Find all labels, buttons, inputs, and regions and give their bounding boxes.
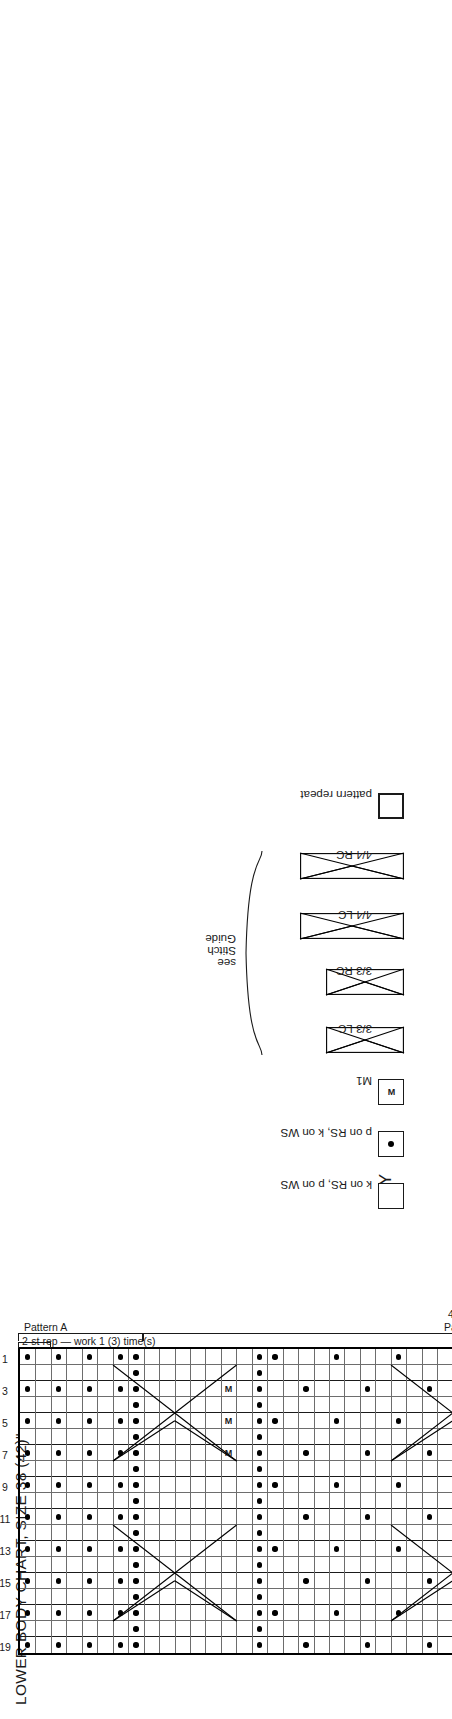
purl-stitch-dot [257,1594,262,1599]
pattern-b-bracket [142,1333,452,1341]
purl-stitch-dot [87,1450,92,1455]
purl-stitch-dot [25,1546,30,1551]
purl-stitch-dot [334,1418,339,1423]
chart-stitch-divider [360,1349,361,1653]
purl-stitch-dot [25,1354,30,1359]
chart-stitch-divider [344,1349,345,1653]
purl-stitch-dot [56,1578,61,1583]
chart-stitch-divider [51,1349,52,1653]
purl-stitch-dot [133,1642,138,1647]
purl-stitch-dot [25,1514,30,1519]
purl-stitch-dot [365,1386,370,1391]
chart-row-number: 5 [0,1417,14,1429]
purl-stitch-dot [257,1610,262,1615]
purl-stitch-dot [365,1514,370,1519]
purl-stitch-dot [25,1450,30,1455]
purl-stitch-dot [257,1402,262,1407]
chart-stage: LOWER BODY CHART, SIZE 38 (42)" MMMMMM 1… [0,0,452,1719]
chart-stitch-divider [283,1349,284,1653]
purl-stitch-dot [272,1418,277,1423]
purl-stitch-dot [56,1546,61,1551]
purl-stitch-dot [87,1386,92,1391]
purl-stitch-dot [257,1450,262,1455]
purl-stitch-dot [396,1354,401,1359]
purl-stitch-dot [365,1642,370,1647]
purl-stitch-dot [118,1354,123,1359]
purl-stitch-dot [25,1482,30,1487]
purl-stitch-dot [118,1482,123,1487]
chart-stitch-divider [66,1349,67,1653]
purl-stitch-dot [272,1482,277,1487]
chart-stitch-divider [82,1349,83,1653]
cable-4-4-2-lower [391,1365,452,1461]
purl-stitch-dot [87,1546,92,1551]
purl-stitch-dot [303,1514,308,1519]
chart-stitch-divider [97,1349,98,1653]
purl-stitch-dot [257,1642,262,1647]
purl-stitch-dot [25,1386,30,1391]
purl-stitch-dot [257,1354,262,1359]
purl-stitch-dot [272,1546,277,1551]
purl-stitch-dot [396,1482,401,1487]
cable-4-4-2-upper [391,1525,452,1621]
purl-stitch-dot [257,1562,262,1567]
purl-stitch-dot [303,1450,308,1455]
chart-row-number: 1 [0,1353,14,1365]
pattern-b-sts-label: 41 sts [448,1308,452,1320]
chart-stitch-divider [314,1349,315,1653]
purl-stitch-dot [257,1386,262,1391]
purl-stitch-dot [87,1482,92,1487]
purl-stitch-dot [87,1514,92,1519]
cable-4-4-3-lower [113,1365,237,1461]
purl-stitch-dot [257,1626,262,1631]
knitting-chart-grid: MMMMMM [18,1347,452,1655]
purl-stitch-dot [257,1466,262,1471]
purl-stitch-dot [56,1482,61,1487]
purl-stitch-dot [56,1354,61,1359]
pattern-b-label: Pattern B [444,1321,452,1333]
purl-stitch-dot [334,1546,339,1551]
purl-stitch-dot [56,1610,61,1615]
chart-row-number: 3 [0,1385,14,1397]
purl-stitch-dot [303,1386,308,1391]
pattern-a-label: Pattern A [24,1321,67,1333]
purl-stitch-dot [56,1514,61,1519]
chart-stitch-divider [252,1349,253,1653]
purl-stitch-dot [133,1514,138,1519]
purl-stitch-dot [257,1418,262,1423]
stitch-guide-brace [0,0,452,1231]
purl-stitch-dot [133,1626,138,1631]
pattern-a-strep-label: 2-st rep — work 1 (3) time(s) [22,1335,156,1347]
purl-stitch-dot [87,1642,92,1647]
chart-row-number: 7 [0,1449,14,1461]
chart-stitch-divider [298,1349,299,1653]
purl-stitch-dot [272,1610,277,1615]
purl-stitch-dot [25,1642,30,1647]
chart-stitch-divider [329,1349,330,1653]
purl-stitch-dot [303,1642,308,1647]
purl-stitch-dot [133,1354,138,1359]
purl-stitch-dot [427,1514,432,1519]
purl-stitch-dot [56,1450,61,1455]
purl-stitch-dot [365,1578,370,1583]
purl-stitch-dot [365,1450,370,1455]
cable-4-4-3-upper [113,1525,237,1621]
purl-stitch-dot [257,1530,262,1535]
chart-key: KEYMk on RS, p on WSp on RS, k on WSM13/… [0,0,452,1231]
purl-stitch-dot [427,1642,432,1647]
chart-stitch-divider [267,1349,268,1653]
purl-stitch-dot [118,1642,123,1647]
purl-stitch-dot [257,1370,262,1375]
purl-stitch-dot [87,1578,92,1583]
purl-stitch-dot [257,1498,262,1503]
purl-stitch-dot [25,1578,30,1583]
purl-stitch-dot [272,1354,277,1359]
chart-stitch-divider [35,1349,36,1653]
purl-stitch-dot [257,1514,262,1519]
purl-stitch-dot [334,1482,339,1487]
chart-row-number: 19 [0,1641,14,1653]
purl-stitch-dot [334,1354,339,1359]
chart-row-number: 15 [0,1577,14,1589]
chart-row-number: 17 [0,1609,14,1621]
purl-stitch-dot [56,1386,61,1391]
